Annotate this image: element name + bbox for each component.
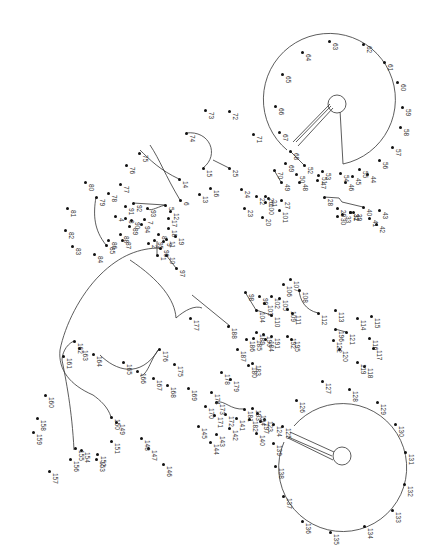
puzzle-dot	[153, 239, 156, 242]
puzzle-dot	[362, 206, 365, 209]
dot-number-label: 150	[114, 419, 121, 430]
puzzle-dot	[316, 179, 319, 182]
puzzle-dot	[74, 447, 77, 450]
dot-number-label: 43	[382, 212, 389, 219]
puzzle-dot	[167, 227, 170, 230]
dot-number-label: 4	[118, 218, 125, 222]
puzzle-dot	[261, 216, 264, 219]
dot-number-label: 133	[395, 512, 402, 523]
puzzle-dot	[248, 418, 251, 421]
dot-number-label: 119	[360, 364, 367, 374]
dot-number-label: 100	[268, 204, 275, 215]
dot-number-label: 57	[395, 149, 402, 156]
puzzle-dot	[378, 159, 381, 162]
dot-number-label: 104	[259, 312, 266, 323]
dot-number-label: 158	[40, 420, 47, 431]
puzzle-dot	[282, 283, 285, 286]
dot-number-label: 166	[140, 373, 147, 384]
dot-number-label: 140	[259, 435, 266, 446]
puzzle-dot	[125, 164, 128, 167]
dot-to-dot-puzzle: 1234567891011121314151617181920212223242…	[0, 0, 435, 560]
puzzle-dot	[255, 195, 258, 198]
puzzle-dot	[328, 40, 331, 43]
dot-number-label: 173	[219, 404, 226, 415]
puzzle-dot	[130, 219, 133, 222]
puzzle-dot	[281, 73, 284, 76]
dot-number-label: 187	[240, 351, 247, 362]
puzzle-dot	[264, 195, 267, 198]
dot-number-label: 80	[88, 184, 95, 191]
puzzle-dot	[278, 209, 281, 212]
dot-number-label: 128	[352, 391, 359, 402]
dot-number-label: 25	[232, 170, 239, 177]
dot-number-label: 163	[82, 350, 89, 361]
puzzle-dot	[368, 337, 371, 340]
dot-number-label: 151	[114, 443, 121, 454]
dot-number-label: 24	[244, 191, 251, 198]
dot-number-label: 10	[169, 257, 176, 264]
puzzle-dot	[44, 394, 47, 397]
dot-number-label: 118	[367, 368, 374, 378]
dot-number-label: 90	[134, 222, 141, 229]
dot-number-label: 93	[150, 210, 157, 217]
dot-number-label: 48	[302, 184, 309, 191]
dot-number-label: 92	[136, 205, 143, 212]
puzzle-dot	[272, 423, 275, 426]
dot-number-label: 145	[201, 428, 208, 439]
puzzle-dot	[167, 217, 170, 220]
dot-number-label: 164	[96, 356, 103, 367]
dot-number-label: 156	[73, 461, 80, 472]
puzzle-dot	[96, 453, 99, 456]
dot-number-label: 113	[338, 312, 345, 322]
puzzle-dot	[391, 509, 394, 512]
dot-number-label: 168	[170, 387, 177, 398]
puzzle-dot	[263, 302, 266, 305]
dot-number-label: 68	[293, 153, 300, 160]
dot-number-label: 176	[162, 351, 169, 362]
puzzle-dot	[378, 209, 381, 212]
puzzle-dot	[220, 371, 223, 374]
dot-number-label: 23	[247, 210, 254, 217]
dot-number-label: 63	[332, 43, 339, 50]
puzzle-dot	[69, 458, 72, 461]
dot-number-label: 114	[360, 320, 367, 330]
dot-number-label: 59	[405, 109, 412, 116]
puzzle-dot	[352, 211, 355, 214]
dot-number-label: 108	[302, 292, 309, 303]
puzzle-dot	[317, 174, 320, 177]
dot-number-label: 20	[265, 219, 272, 226]
puzzle-dot	[175, 267, 178, 270]
puzzle-dot	[143, 218, 146, 221]
dot-number-label: 132	[407, 486, 414, 497]
dot-number-label: 42	[379, 226, 386, 233]
puzzle-dot	[93, 253, 96, 256]
dot-number-label: 179	[233, 381, 240, 392]
puzzle-dot	[281, 425, 284, 428]
puzzle-dot	[92, 353, 95, 356]
dot-number-label: 94	[144, 226, 151, 233]
dot-number-label: 174	[214, 394, 221, 405]
puzzle-dot	[370, 315, 373, 318]
dot-number-label: 171	[217, 417, 224, 428]
dot-number-label: 148	[144, 440, 151, 451]
puzzle-dot	[376, 401, 379, 404]
dot-number-label: 81	[70, 210, 77, 217]
puzzle-dot	[329, 531, 332, 534]
dot-number-label: 49	[284, 184, 291, 191]
puzzle-dot	[272, 442, 275, 445]
dot-number-label: 139	[276, 445, 283, 456]
dot-number-label: 14	[182, 181, 189, 188]
puzzle-dot	[301, 51, 304, 54]
dot-number-label: 121	[349, 334, 356, 345]
puzzle-dot	[140, 223, 143, 226]
dot-number-label: 169	[191, 390, 198, 401]
puzzle-dot	[209, 441, 212, 444]
dot-number-label: 124	[276, 426, 283, 437]
puzzle-dot	[362, 43, 365, 46]
puzzle-dot	[321, 380, 324, 383]
dot-number-label: 62	[366, 46, 373, 53]
puzzle-dot	[251, 362, 254, 365]
dot-number-label: 69	[288, 165, 295, 172]
dot-number-label: 64	[305, 54, 312, 61]
puzzle-dot	[62, 355, 65, 358]
